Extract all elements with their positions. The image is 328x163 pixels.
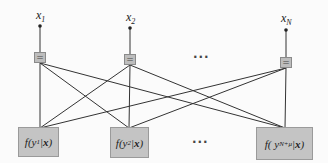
equality-node-2: = xyxy=(124,54,136,65)
function-box-N: f( yN+μ | x) xyxy=(256,127,313,160)
variable-dot-xN xyxy=(284,28,288,32)
equality-node-N: = xyxy=(280,57,292,68)
edge-eq1-fN xyxy=(40,63,285,128)
factor-graph-diagram: x1 x2 xN = = = ··· f(y1|x) f(y2|x) f( yN… xyxy=(0,0,328,163)
edge-eqN-fN xyxy=(285,68,286,128)
ellipsis-bottom: ··· xyxy=(192,136,209,148)
ellipsis-top: ··· xyxy=(193,51,210,63)
equality-node-1: = xyxy=(34,52,46,63)
function-box-1: f(y1|x) xyxy=(18,127,59,157)
variable-label-x2: x2 xyxy=(126,11,135,26)
variable-label-xN: xN xyxy=(281,12,292,27)
variable-dot-x2 xyxy=(128,26,132,30)
edge-eqN-f1 xyxy=(40,68,286,128)
function-box-2: f(y2|x) xyxy=(110,127,149,158)
edge-eq2-f2 xyxy=(129,65,130,128)
variable-label-x1: x1 xyxy=(36,9,45,24)
variable-dot-x1 xyxy=(38,24,42,28)
